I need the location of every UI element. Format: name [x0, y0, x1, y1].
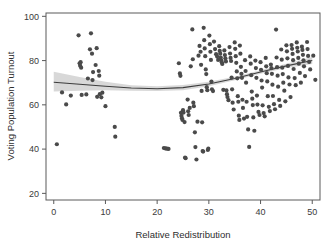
data-point — [284, 43, 288, 47]
data-point — [270, 72, 274, 76]
data-point — [295, 46, 299, 50]
data-point — [209, 80, 213, 84]
data-point — [227, 45, 231, 49]
data-point — [287, 82, 291, 86]
data-point — [241, 106, 245, 110]
data-point — [189, 64, 193, 68]
x-tick-label: 0 — [51, 207, 56, 217]
data-point — [86, 76, 90, 80]
data-point — [177, 61, 181, 65]
data-point — [286, 64, 290, 68]
data-point — [204, 72, 208, 76]
data-point — [276, 74, 280, 78]
data-point — [247, 145, 251, 149]
data-point — [276, 85, 280, 89]
data-point — [84, 92, 88, 96]
data-point — [263, 114, 267, 118]
data-point — [273, 107, 277, 111]
data-point — [206, 147, 210, 151]
data-point — [200, 120, 204, 124]
data-point — [280, 66, 284, 70]
data-point — [191, 101, 195, 105]
data-point — [228, 51, 232, 55]
data-point — [202, 38, 206, 42]
data-point — [296, 49, 300, 53]
data-point — [267, 105, 271, 109]
data-point — [244, 100, 248, 104]
data-point — [217, 44, 221, 48]
data-point — [183, 156, 187, 160]
data-point — [306, 54, 310, 58]
y-axis-title: Voting Population Turnout — [5, 51, 16, 160]
data-point — [275, 65, 279, 69]
data-point — [291, 58, 295, 62]
data-point — [281, 72, 285, 76]
y-tick-label: 100 — [24, 12, 39, 22]
data-point — [253, 58, 257, 62]
data-point — [269, 66, 273, 70]
data-point — [76, 33, 80, 37]
data-point — [259, 68, 263, 72]
data-point — [291, 52, 295, 56]
data-point — [259, 78, 263, 82]
data-point — [79, 66, 83, 70]
data-point — [243, 69, 247, 73]
data-point — [237, 118, 241, 122]
data-point — [196, 54, 200, 58]
data-point — [103, 104, 107, 108]
data-point — [208, 50, 212, 54]
data-point — [274, 55, 278, 59]
data-point — [240, 98, 244, 102]
data-point — [264, 56, 268, 60]
data-point — [235, 76, 239, 80]
x-tick-label: 50 — [307, 207, 317, 217]
data-point — [190, 27, 194, 31]
data-point — [226, 98, 230, 102]
data-point — [200, 89, 204, 93]
data-point — [246, 127, 250, 131]
data-point — [280, 58, 284, 62]
data-point — [300, 48, 304, 52]
data-point — [220, 62, 224, 66]
data-point — [113, 135, 117, 139]
data-point — [294, 83, 298, 87]
data-point — [205, 88, 209, 92]
data-point — [293, 76, 297, 80]
data-point — [266, 94, 270, 98]
data-point — [250, 97, 254, 101]
x-tick-label: 30 — [204, 207, 214, 217]
data-point — [288, 95, 292, 99]
data-point — [90, 52, 94, 56]
data-point — [269, 62, 273, 66]
data-point — [193, 145, 197, 149]
data-point — [233, 47, 237, 51]
data-point — [100, 91, 104, 95]
y-tick-label: 80 — [29, 56, 39, 66]
data-point — [264, 64, 268, 68]
data-point — [208, 42, 212, 46]
data-point — [303, 74, 307, 78]
data-point — [113, 125, 117, 129]
data-point — [192, 104, 196, 108]
data-point — [229, 59, 233, 63]
data-point — [240, 76, 244, 80]
data-point — [305, 40, 309, 44]
data-point — [237, 114, 241, 118]
x-tick-label: 10 — [100, 207, 110, 217]
data-point — [191, 57, 195, 61]
data-point — [313, 78, 317, 82]
data-point — [91, 70, 95, 74]
data-point — [244, 81, 248, 85]
data-point — [236, 100, 240, 104]
data-point — [277, 98, 281, 102]
data-point — [302, 64, 306, 68]
data-point — [94, 63, 98, 67]
data-point — [255, 103, 259, 107]
data-point — [278, 104, 282, 108]
data-point — [64, 102, 68, 106]
data-point — [265, 79, 269, 83]
data-point — [186, 97, 190, 101]
data-point — [235, 69, 239, 73]
data-point — [296, 56, 300, 60]
data-point — [290, 47, 294, 51]
